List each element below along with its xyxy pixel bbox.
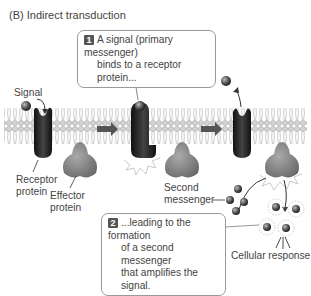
step-1-badge: 1	[84, 35, 94, 45]
callout-step-1: 1A signal (primary messenger) binds to a…	[77, 30, 216, 88]
stage-3	[213, 76, 304, 249]
effector-protein-label: Effector protein	[50, 190, 85, 214]
signal-molecule	[21, 101, 31, 111]
second-messenger-molecules	[213, 185, 248, 215]
response-arrows	[276, 237, 290, 249]
second-messenger-label: Second messenger	[164, 182, 214, 206]
amplified-messengers	[259, 199, 304, 236]
step-2-badge: 2	[108, 218, 118, 228]
signal-label: Signal	[14, 87, 42, 99]
cellular-response-label: Cellular response	[231, 250, 310, 262]
callout-step-2: 2...leading to the formation of a second…	[101, 213, 226, 296]
